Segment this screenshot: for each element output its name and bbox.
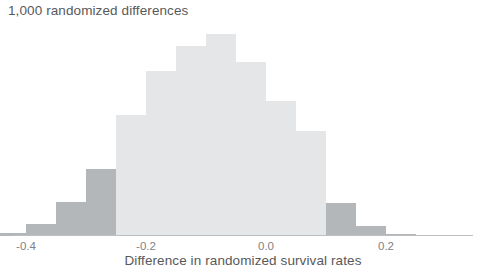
histogram-bar xyxy=(116,115,146,236)
histogram-bar xyxy=(206,34,236,236)
x-axis-title: Difference in randomized survival rates xyxy=(0,253,486,268)
x-axis-tick-label: -0.2 xyxy=(136,240,156,252)
histogram-bar xyxy=(326,203,356,236)
histogram-figure: 1,000 randomized differences -0.4-0.20.0… xyxy=(0,0,486,271)
histogram-bar xyxy=(146,71,176,236)
x-axis-tick-label: 0.0 xyxy=(258,240,274,252)
histogram-bar xyxy=(266,101,296,236)
histogram-bar xyxy=(296,131,326,236)
histogram-bar xyxy=(56,202,86,236)
histogram-bar xyxy=(236,62,266,236)
chart-title: 1,000 randomized differences xyxy=(8,3,188,18)
plot-area xyxy=(0,18,486,236)
histogram-bars xyxy=(0,18,486,236)
x-axis-line xyxy=(14,235,473,236)
histogram-bar xyxy=(176,46,206,236)
x-axis-tick-label: 0.2 xyxy=(378,240,394,252)
histogram-bar xyxy=(86,169,116,236)
x-axis-tick-label: -0.4 xyxy=(16,240,36,252)
